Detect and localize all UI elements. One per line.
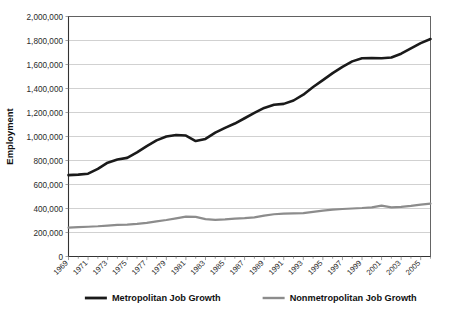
y-tick-label-2000000: 2,000,000 <box>27 13 64 22</box>
chart-canvas: 0200,000400,000600,000800,0001,000,0001,… <box>0 0 450 316</box>
y-axis-title-text: Employment <box>4 108 15 164</box>
y-tick-label-200000: 200,000 <box>33 229 63 238</box>
legend-label-metropolitan: Metropolitan Job Growth <box>112 293 221 303</box>
y-tick-label-1800000: 1,800,000 <box>27 37 64 46</box>
y-tick-label-1600000: 1,600,000 <box>27 61 64 70</box>
legend-label-nonmetropolitan: Nonmetropolitan Job Growth <box>290 293 417 303</box>
y-tick-label-400000: 400,000 <box>33 205 63 214</box>
employment-line-chart: 0200,000400,000600,000800,0001,000,0001,… <box>0 0 450 316</box>
y-tick-label-800000: 800,000 <box>33 157 63 166</box>
chart-background <box>0 0 450 316</box>
y-tick-label-1000000: 1,000,000 <box>27 133 64 142</box>
y-tick-label-600000: 600,000 <box>33 181 63 190</box>
y-tick-label-1400000: 1,400,000 <box>27 85 64 94</box>
y-tick-label-1200000: 1,200,000 <box>27 109 64 118</box>
y-axis-title: Employment <box>4 108 15 164</box>
